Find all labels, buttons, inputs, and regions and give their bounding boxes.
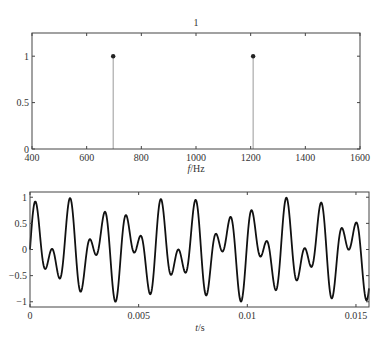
- x-tick-label: 1400: [295, 152, 315, 163]
- x-tick-label: 1000: [186, 152, 206, 163]
- x-tick-label: 1600: [350, 152, 370, 163]
- y-tick-label: −1: [16, 296, 27, 307]
- x-tick-label: 0.01: [239, 310, 257, 321]
- x-tick-label: 0.005: [127, 310, 150, 321]
- spectrum-plot: 1 4006008001000120014001600 00.51 f/Hz: [17, 17, 371, 174]
- y-tick-label: 0: [22, 244, 27, 255]
- top-x-ticks: 4006008001000120014001600: [25, 33, 371, 163]
- y-tick-label: 0.5: [17, 97, 30, 108]
- waveform-line: [30, 198, 369, 302]
- top-x-axis-label: f/Hz: [187, 163, 205, 174]
- y-tick-label: −0.5: [9, 270, 27, 281]
- top-plot-frame: [32, 33, 360, 149]
- x-tick-label: 800: [134, 152, 149, 163]
- y-tick-label: 1: [22, 192, 27, 203]
- x-tick-label: 0.015: [345, 310, 368, 321]
- stem-marker: [251, 54, 255, 58]
- spectrum-stems: [111, 54, 255, 149]
- y-tick-label: 1: [24, 51, 29, 62]
- stem-marker: [111, 54, 115, 58]
- y-tick-label: 0: [24, 144, 29, 155]
- y-tick-label: 0.5: [15, 218, 28, 229]
- x-tick-label: 600: [79, 152, 94, 163]
- dtmf-figure: 1 4006008001000120014001600 00.51 f/Hz 0…: [0, 0, 389, 348]
- bottom-x-axis-label: t/s: [195, 322, 205, 333]
- top-y-ticks: 00.51: [17, 51, 361, 155]
- x-tick-label: 1200: [241, 152, 261, 163]
- x-tick-label: 0: [28, 310, 33, 321]
- plot-title: 1: [194, 17, 199, 28]
- waveform-plot: 00.0050.010.015 −1−0.500.51 t/s: [9, 192, 369, 333]
